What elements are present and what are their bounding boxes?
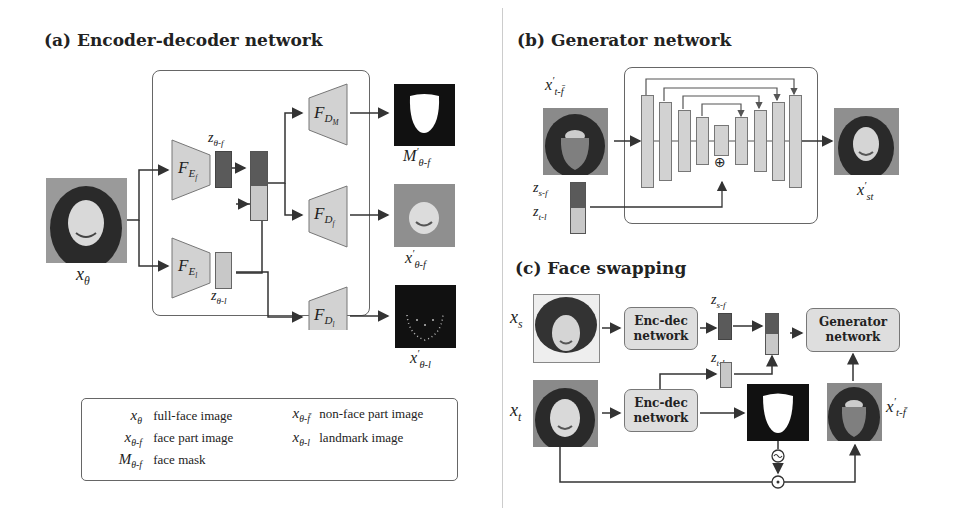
z-sf-label-c: zs-f — [711, 292, 726, 310]
concatenated-latent — [250, 151, 268, 221]
decoder-landmark-label: FDl — [314, 305, 334, 330]
negate-op — [772, 450, 784, 462]
target-mask-image — [747, 384, 809, 441]
generator-output-image — [834, 108, 899, 175]
unet-encoder-block-1 — [641, 95, 654, 188]
unet-encoder-block-4 — [696, 117, 709, 165]
unet-decoder-block-1 — [789, 95, 802, 188]
z-face-latent — [215, 151, 232, 188]
target-label: xt — [510, 400, 521, 424]
nonface-label: x′t-f̄ — [886, 395, 906, 418]
legend-item-non-face: xθ-f̄ non-face part image — [270, 405, 423, 424]
unet-encoder-block-2 — [659, 102, 672, 181]
landmark-output-image — [395, 285, 456, 348]
generator-latent-stack — [570, 182, 586, 234]
z-landmark-label: zθ-l — [211, 288, 226, 306]
unet-decoder-block-4 — [735, 117, 748, 165]
face-part-output-label: x′θ-f — [405, 248, 426, 270]
concat-latent-c — [765, 313, 779, 355]
face-part-output-image — [394, 184, 455, 247]
legend-item-face-part: xθ-f face part image — [100, 429, 233, 448]
unet-decoder-block-3 — [754, 110, 767, 172]
generator-input-image — [543, 108, 608, 175]
unet-decoder-block-2 — [772, 102, 785, 181]
panel-divider — [502, 8, 503, 508]
panel-c-title: (c) Face swapping — [515, 258, 686, 278]
face-mask-output-image — [394, 84, 455, 146]
generator-output-label: x′st — [857, 180, 873, 202]
decoder-face-label: FDf — [314, 204, 334, 229]
multiply-op — [772, 476, 784, 488]
source-label: xs — [510, 307, 523, 331]
source-face-image — [533, 294, 600, 363]
add-symbol: ⊕ — [714, 154, 726, 170]
legend-item-full-face: xθ full-face image — [100, 407, 232, 426]
z-tl-latent-c — [720, 362, 732, 388]
generator-network-box: Generatornetwork — [806, 308, 900, 352]
z-landmark-latent — [215, 252, 232, 289]
panel-b-title: (b) Generator network — [517, 30, 731, 50]
enc-dec-target: Enc-decnetwork — [624, 389, 698, 432]
z-tl-label-b: zt-l — [533, 204, 547, 222]
decoder-mask-label: FDM — [314, 103, 338, 128]
target-face-image — [533, 380, 598, 447]
z-sf-latent-c — [718, 313, 732, 340]
generator-input-label: x′t-f̄ — [545, 75, 564, 97]
unet-bottleneck — [714, 125, 729, 156]
face-mask-output-label: M′θ-f — [403, 146, 430, 168]
encoder-face-label: FEf — [178, 158, 197, 183]
unet-encoder-block-3 — [678, 110, 691, 172]
encoder-landmark-label: FEl — [178, 256, 197, 281]
legend-item-face-mask: Mθ-f face mask — [100, 451, 206, 470]
nonface-image — [827, 383, 882, 441]
z-sf-label-b: zs-f — [533, 180, 548, 198]
landmark-output-label: x′θ-l — [410, 348, 431, 370]
enc-dec-source: Enc-decnetwork — [624, 307, 698, 350]
z-face-label: zθ-f — [208, 130, 223, 148]
legend-item-landmark: xθ-l landmark image — [270, 429, 403, 448]
